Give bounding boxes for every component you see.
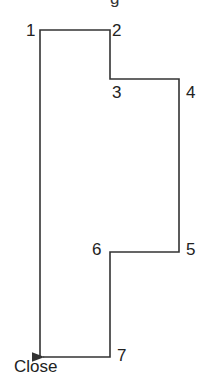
point-label-2: 2 xyxy=(112,22,121,39)
point-label-1: 1 xyxy=(26,22,35,39)
point-label-4: 4 xyxy=(186,84,195,101)
point-label-6: 6 xyxy=(92,241,101,258)
close-label: Close xyxy=(14,358,57,375)
point-label-5: 5 xyxy=(186,241,195,258)
point-label-7: 7 xyxy=(117,347,126,364)
point-label-3: 3 xyxy=(112,84,121,101)
